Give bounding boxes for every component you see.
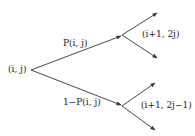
- root-node-label: (i, j): [8, 65, 26, 74]
- tree-diagram: [0, 0, 195, 136]
- edge-label-upper: P(i, j): [63, 39, 87, 48]
- child-node-label-lower: (i+1, 2j−1): [141, 101, 192, 110]
- edge-label-lower: 1−P(i, j): [63, 98, 101, 107]
- child-node-label-upper: (i+1, 2j): [142, 30, 179, 39]
